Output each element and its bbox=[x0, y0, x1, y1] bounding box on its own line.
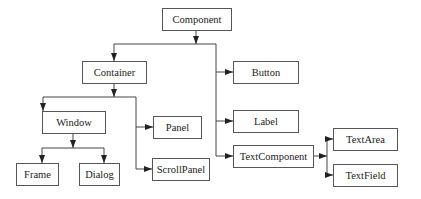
node-label: Window bbox=[56, 117, 92, 128]
node-label: Dialog bbox=[85, 169, 114, 180]
node-panel: Panel bbox=[154, 117, 202, 139]
node-frame: Frame bbox=[17, 164, 59, 186]
node-label: Panel bbox=[166, 122, 189, 133]
node-label: Component bbox=[173, 14, 222, 25]
node-label: Frame bbox=[24, 169, 51, 180]
node-label: Button bbox=[252, 67, 281, 78]
class-hierarchy-diagram: Component Container Button Window Panel … bbox=[0, 0, 421, 199]
node-label: TextComponent bbox=[240, 151, 308, 162]
node-label-class: Label bbox=[234, 111, 299, 133]
node-label: TextArea bbox=[346, 134, 385, 145]
node-label: ScrollPanel bbox=[157, 164, 205, 175]
node-scrollpanel: ScrollPanel bbox=[153, 159, 210, 181]
node-container: Container bbox=[83, 62, 147, 84]
node-textcomponent: TextComponent bbox=[234, 146, 314, 168]
node-textarea: TextArea bbox=[334, 129, 398, 151]
node-label: TextField bbox=[345, 170, 386, 181]
node-label: Label bbox=[254, 116, 278, 127]
node-dialog: Dialog bbox=[80, 164, 120, 186]
node-label: Container bbox=[94, 67, 136, 78]
node-textfield: TextField bbox=[334, 165, 398, 187]
node-window: Window bbox=[43, 112, 106, 134]
node-component: Component bbox=[163, 9, 232, 31]
node-button: Button bbox=[234, 62, 299, 84]
